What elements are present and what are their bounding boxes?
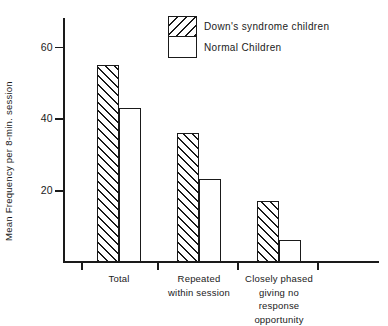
x-axis-category-label: Repeated within session — [159, 272, 239, 299]
bar-normal — [279, 240, 301, 262]
legend-label: Down's syndrome children — [204, 21, 329, 32]
x-axis-line — [63, 261, 379, 263]
bar-downs-syndrome — [177, 133, 199, 262]
x-axis-tick — [317, 261, 319, 270]
y-axis-title: Mean Frequency per 8-min. session — [3, 81, 14, 241]
bar-downs-syndrome — [97, 65, 119, 262]
chart-legend: Down's syndrome children Normal Children — [168, 16, 329, 58]
x-axis-category-label: Closely phased giving no response opport… — [239, 272, 319, 326]
bar-downs-syndrome — [257, 201, 279, 262]
y-axis-tick-label: 40 — [41, 112, 53, 124]
bar-normal — [199, 179, 221, 262]
legend-item-downs-syndrome: Down's syndrome children — [168, 16, 329, 37]
bar-normal — [119, 108, 141, 262]
x-axis-tick — [237, 261, 239, 270]
x-axis-category-label: Total — [79, 272, 159, 286]
legend-item-normal: Normal Children — [168, 37, 329, 58]
legend-label: Normal Children — [204, 42, 282, 53]
y-axis-tick-label: 60 — [41, 41, 53, 53]
legend-swatch-hatched-icon — [168, 16, 197, 37]
legend-swatch-open-icon — [168, 37, 197, 58]
x-axis-tick — [81, 261, 83, 270]
y-axis-tick-label: 20 — [41, 184, 53, 196]
x-axis-tick — [157, 261, 159, 270]
